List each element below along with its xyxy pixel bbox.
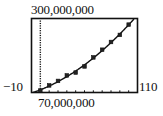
data-point xyxy=(39,89,43,93)
data-point xyxy=(56,79,60,83)
window-frame xyxy=(32,19,138,93)
data-points xyxy=(39,23,131,93)
data-point xyxy=(74,71,78,75)
data-point xyxy=(83,65,87,69)
data-point xyxy=(109,40,113,44)
data-point xyxy=(127,23,131,27)
data-point xyxy=(47,84,51,88)
data-point xyxy=(118,33,122,37)
y-axis xyxy=(40,21,41,92)
fitted-curve xyxy=(33,19,134,92)
data-point xyxy=(100,48,104,52)
graph-window xyxy=(0,0,163,116)
data-point xyxy=(65,74,69,78)
data-point xyxy=(92,56,96,60)
